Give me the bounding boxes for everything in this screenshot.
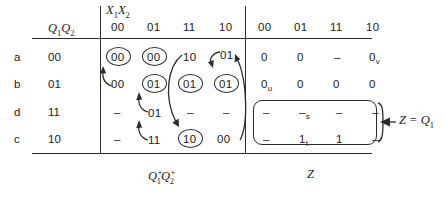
z-col-header-11: 11 [330, 22, 343, 34]
ns-cell-c-10: 00 [217, 134, 230, 146]
z-cell-b-10: 0 [369, 79, 376, 93]
footer-q-2: Q [161, 169, 170, 183]
z-value-b-01: 0 [297, 78, 304, 90]
z-col-header-01: 01 [294, 22, 307, 34]
z-cell-b-01: 0 [297, 79, 304, 93]
state-variable-letter-2: Q [61, 21, 70, 35]
ns-cell-b-10: 01 [219, 79, 232, 91]
row-state-a: 00 [48, 52, 61, 64]
state-variable-header: Q1Q2 [48, 22, 75, 37]
z-cell-a-00: 0 [261, 52, 268, 66]
callout-subscript: 1 [430, 120, 434, 130]
ns-cell-d-00: – [114, 107, 121, 119]
ns-col-header-00: 00 [111, 22, 124, 34]
header-separator-rule [32, 38, 372, 39]
input-variable-letter-1: X [106, 3, 114, 17]
z-cell-b-00: 0u [261, 79, 272, 93]
z-value-a-11: – [334, 51, 341, 63]
ns-cell-b-00: 00 [111, 79, 124, 91]
state-column-divider [100, 6, 101, 153]
ns-cell-b-01: 01 [147, 79, 160, 91]
ns-col-header-01: 01 [147, 22, 160, 34]
next-state-caption: Q+1Q+2 [148, 168, 174, 185]
z-cell-a-11: – [334, 52, 341, 66]
z-cell-b-11: 0 [333, 79, 340, 93]
ns-cell-d-11: – [187, 107, 194, 119]
ns-col-header-11: 11 [183, 22, 196, 34]
row-state-d: 11 [48, 107, 60, 119]
z-value-a-00: 0 [261, 51, 268, 63]
z-value-b-10: 0 [369, 78, 376, 90]
arrow-a11-to-c11 [168, 55, 182, 127]
callout-label: Z = Q1 [399, 114, 434, 129]
row-name-a: a [14, 52, 20, 64]
ns-cell-c-00: – [114, 134, 121, 146]
ns-cell-d-10: – [223, 107, 230, 119]
footer-q-1: Q [148, 169, 157, 183]
z-col-header-10: 10 [366, 22, 379, 34]
ns-cell-b-11: 01 [183, 79, 196, 91]
state-transition-figure: Q1Q2 X1X2 00 01 11 10 00 01 11 10 a 00 b… [0, 0, 445, 201]
footer-sub-2: 2 [170, 176, 174, 186]
callout-arrow-icon [380, 118, 396, 127]
z-value-b-11: 0 [333, 78, 340, 90]
ns-cell-d-01: 01 [148, 108, 161, 120]
z-sub-a-10: v [376, 57, 380, 66]
row-state-b: 01 [48, 79, 61, 91]
ns-cell-c-11: 10 [183, 134, 196, 146]
state-variable-letter-1: Q [48, 21, 57, 35]
state-variable-sub-2: 2 [70, 28, 74, 38]
z-sub-b-00: u [268, 84, 273, 93]
arrow-c01-to-d01 [136, 120, 148, 140]
z-cell-a-10: 0v [369, 52, 380, 66]
arrow-d01-to-b01 [136, 92, 148, 112]
ns-cell-a-10: 01 [220, 50, 233, 62]
ns-cell-a-00: 00 [111, 52, 124, 64]
row-name-b: b [14, 79, 20, 91]
row-name-d: d [14, 107, 20, 119]
next-state-output-divider [245, 6, 246, 153]
ns-cell-a-11: 10 [183, 52, 196, 64]
input-variable-header: X1X2 [106, 4, 130, 19]
row-name-c: c [14, 134, 20, 146]
input-variable-letter-2: X [118, 3, 126, 17]
z-value-b-00: 0 [261, 78, 268, 90]
callout-text: Z = Q [399, 113, 430, 127]
arrow-c10-to-a10 [235, 54, 246, 140]
z-highlight-box [253, 100, 377, 145]
ns-cell-a-01: 00 [147, 52, 160, 64]
z-value-a-01: 0 [297, 51, 304, 63]
z-cell-a-01: 0 [297, 52, 304, 66]
ns-cell-c-01: 11 [148, 135, 161, 147]
body-bottom-rule [32, 153, 372, 154]
output-caption: Z [307, 168, 314, 181]
z-value-a-10: 0 [369, 51, 376, 63]
ns-col-header-10: 10 [219, 22, 232, 34]
z-col-header-00: 00 [258, 22, 271, 34]
row-state-c: 10 [48, 134, 61, 146]
arrow-a10-to-b10 [208, 52, 220, 68]
input-variable-sub-2: 2 [126, 10, 130, 20]
